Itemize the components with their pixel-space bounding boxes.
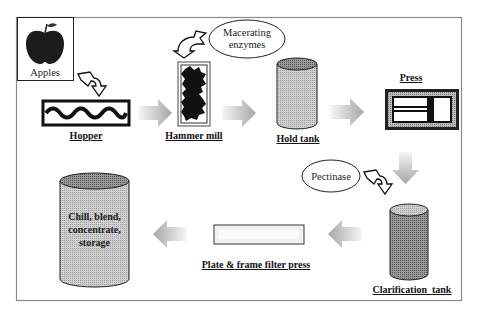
filter-press-icon bbox=[214, 225, 304, 244]
hopper-label: Hopper bbox=[70, 130, 103, 141]
clarification-tank-label: Clarification tank bbox=[373, 284, 452, 295]
hammer-mill-icon bbox=[178, 62, 210, 126]
hold-tank-icon bbox=[277, 58, 317, 129]
apples-box: Apples bbox=[18, 18, 74, 81]
apples-label: Apples bbox=[30, 67, 60, 78]
macerating-line2: enzymes bbox=[229, 39, 266, 50]
storage-line1: Chill, blend, bbox=[68, 211, 121, 222]
process-diagram: Apples Hopper Macerating enzymes Hammer … bbox=[0, 0, 477, 316]
storage-line3: storage bbox=[79, 237, 111, 248]
storage-line2: concentrate, bbox=[68, 224, 121, 235]
filter-press-label: Plate & frame filter press bbox=[202, 259, 311, 270]
hold-tank-label: Hold tank bbox=[276, 133, 320, 144]
pectinase-label: Pectinase bbox=[311, 171, 351, 182]
macerating-line1: Macerating bbox=[223, 27, 272, 38]
clarification-tank-icon bbox=[390, 204, 428, 280]
press-label: Press bbox=[400, 72, 423, 83]
press-icon bbox=[385, 89, 459, 130]
hammer-mill-label: Hammer mill bbox=[165, 130, 223, 141]
hopper-icon bbox=[43, 101, 129, 125]
